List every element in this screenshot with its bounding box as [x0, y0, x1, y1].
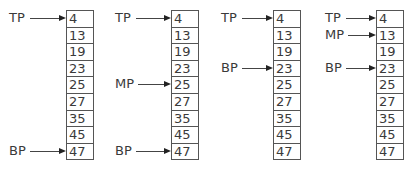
- pointer-label: MP: [325, 28, 344, 42]
- pointer-tp: TP: [325, 11, 376, 25]
- search-step-panel: 41319232527354547TPMPBP: [0, 0, 415, 170]
- arrow-right-icon: [369, 15, 376, 21]
- array-cell: 45: [377, 127, 403, 144]
- arrow-line: [346, 68, 370, 69]
- arrow-line: [346, 18, 370, 19]
- array-cell: 27: [377, 94, 403, 111]
- arrow-right-icon: [369, 32, 376, 38]
- sorted-array: 41319232527354547: [376, 10, 404, 160]
- pointer-label: BP: [325, 61, 342, 75]
- arrow-right-icon: [369, 65, 376, 71]
- array-cell: 4: [377, 11, 403, 28]
- pointer-label: TP: [325, 11, 341, 25]
- array-cell: 25: [377, 77, 403, 94]
- array-cell: 19: [377, 44, 403, 61]
- array-cell: 13: [377, 28, 403, 45]
- array-cell: 47: [377, 144, 403, 161]
- pointer-mp: MP: [325, 28, 376, 42]
- pointer-bp: BP: [325, 61, 376, 75]
- array-cell: 35: [377, 111, 403, 128]
- array-cell: 23: [377, 61, 403, 78]
- arrow-line: [348, 35, 370, 36]
